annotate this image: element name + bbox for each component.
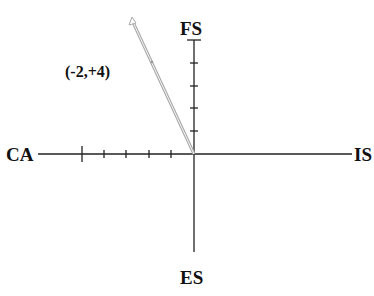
vector-midpoint-dot (151, 61, 154, 64)
axis-label-bottom: ES (180, 268, 203, 287)
axis-label-top: FS (180, 19, 202, 38)
vector-coordinate-label: (-2,+4) (65, 64, 110, 80)
axis-label-left: CA (6, 145, 33, 164)
axis-label-right: IS (354, 145, 372, 164)
axes-canvas (0, 0, 374, 296)
quadrant-diagram: FS ES CA IS (-2,+4) (0, 0, 374, 296)
arrowhead-icon (129, 17, 136, 25)
